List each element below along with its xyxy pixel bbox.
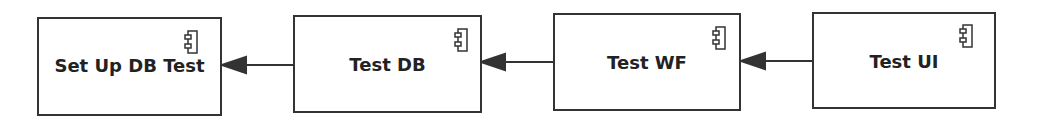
arrowhead-icon (741, 53, 765, 69)
component-label: Set Up DB Test (39, 55, 220, 76)
component-icon (184, 30, 198, 54)
component-test-ui[interactable]: Test UI (812, 12, 996, 109)
arrowhead-icon (481, 54, 505, 70)
component-test-db[interactable]: Test DB (293, 15, 482, 113)
arrowhead-icon (222, 57, 246, 73)
component-set-up-db-test[interactable]: Set Up DB Test (37, 17, 222, 116)
component-icon (454, 28, 468, 52)
component-label: Test WF (555, 52, 739, 73)
component-icon (959, 24, 973, 48)
component-label: Test UI (814, 51, 994, 72)
component-test-wf[interactable]: Test WF (553, 13, 741, 111)
component-icon (712, 26, 726, 50)
component-label: Test DB (295, 54, 480, 75)
